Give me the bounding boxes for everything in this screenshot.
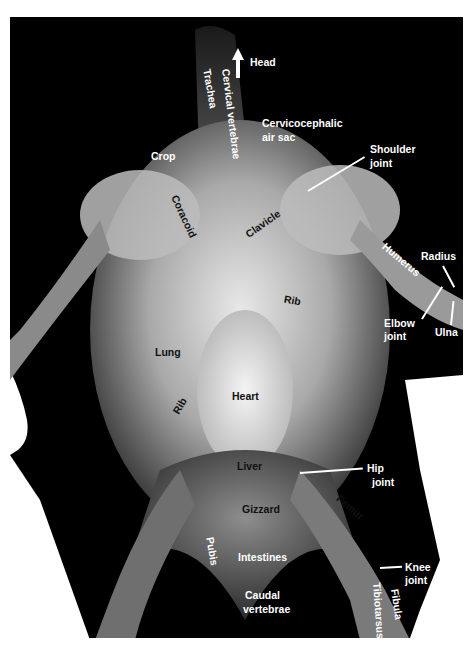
elbow-joint-label-1: Elbow bbox=[384, 317, 415, 329]
lung-label: Lung bbox=[155, 346, 181, 358]
shoulder-joint-label-1: Shoulder bbox=[370, 143, 416, 155]
gizzard-label: Gizzard bbox=[242, 503, 280, 515]
liver-label: Liver bbox=[237, 460, 262, 472]
caudal-vertebrae-label-1: Caudal bbox=[245, 589, 280, 601]
crop-label: Crop bbox=[151, 150, 176, 162]
intestines-label: Intestines bbox=[238, 551, 287, 563]
shoulder-joint-label-2: joint bbox=[370, 157, 392, 169]
orientation-indicator bbox=[232, 48, 244, 82]
radius-label: Radius bbox=[421, 250, 456, 262]
caudal-vertebrae-label-2: vertebrae bbox=[243, 603, 290, 615]
cervicocephalic-air-sac-label-1: Cervicocephalic bbox=[262, 117, 343, 129]
hip-joint-label-2: joint bbox=[372, 476, 394, 488]
knee-joint-label-2: joint bbox=[405, 574, 427, 586]
head-label: Head bbox=[250, 56, 276, 68]
elbow-joint-label-2: joint bbox=[384, 330, 406, 342]
cervicocephalic-air-sac-label-2: air sac bbox=[262, 131, 295, 143]
heart-label: Heart bbox=[232, 390, 259, 402]
knee-joint-label-1: Knee bbox=[405, 561, 431, 573]
hip-joint-label-1: Hip bbox=[367, 462, 384, 474]
arrow-up-icon bbox=[232, 48, 244, 78]
ulna-label: Ulna bbox=[435, 326, 458, 338]
